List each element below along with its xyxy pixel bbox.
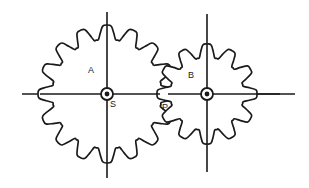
- pitch-point-p-label: P: [162, 102, 168, 112]
- gear-a-label: A: [88, 65, 94, 75]
- gear-diagram-canvas: A B S P: [0, 0, 309, 188]
- gear-diagram-figure: A B S P: [0, 0, 309, 188]
- gear-b-hub-center-dot: [205, 92, 210, 97]
- shaft-s-label: S: [110, 99, 116, 109]
- gear-b-label: B: [188, 70, 194, 80]
- gear-a-hub-center-dot: [105, 92, 110, 97]
